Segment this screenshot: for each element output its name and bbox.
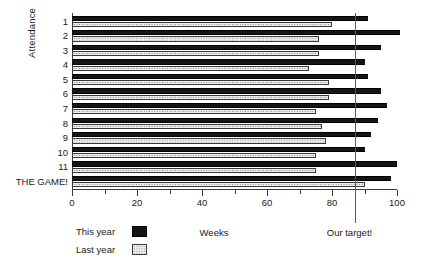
x-axis-minor-tick [300,190,301,194]
bar-this-year [72,132,371,137]
y-axis-tick-label: 1 [63,14,68,29]
bar-last-year [72,22,332,27]
y-axis-tick-label: 2 [63,29,68,44]
bar-last-year [72,124,322,129]
bar-last-year [72,80,329,85]
legend-swatch-this-year [132,226,147,237]
x-axis-tick [267,190,268,196]
y-axis-tick-label: 10 [57,145,68,160]
y-axis-tick-label: 11 [58,160,68,175]
y-axis-tick-label: 5 [63,72,68,87]
x-axis-tick-label: 40 [182,197,222,208]
x-axis-minor-tick [105,190,106,194]
category-row: 5 [72,72,397,87]
y-axis-tick-label: 8 [63,116,68,131]
bar-this-year [72,103,387,108]
chart-legend: This year Last year [76,222,147,258]
target-line [355,13,356,223]
category-row: 1 [72,14,397,29]
bar-this-year [72,147,365,152]
bar-this-year [72,30,400,35]
bar-last-year [72,109,316,114]
bar-this-year [72,74,368,79]
bar-this-year [72,176,391,181]
category-row: 7 [72,102,397,117]
bar-last-year [72,182,365,187]
x-axis-tick-label: 20 [117,197,157,208]
x-axis-tick-label: 100 [377,197,417,208]
bar-last-year [72,138,326,143]
category-row: 6 [72,87,397,102]
horizontal-bar-chart: Attendance 1234567891011THE GAME! Our ta… [0,0,428,274]
bar-last-year [72,95,329,100]
y-axis-tick-label: THE GAME! [16,174,68,189]
bar-this-year [72,16,368,21]
x-axis-minor-tick [235,190,236,194]
x-axis-tick [202,190,203,196]
legend-item-last-year: Last year [76,240,147,258]
y-axis-title: Attendance [26,44,37,58]
bar-this-year [72,161,397,166]
x-axis-tick [332,190,333,196]
bar-last-year [72,36,319,41]
legend-swatch-last-year [132,244,147,255]
bar-this-year [72,118,378,123]
x-axis-tick-label: 80 [312,197,352,208]
x-axis-tick [72,190,73,196]
plot-area: 1234567891011THE GAME! [72,14,397,189]
bar-last-year [72,168,316,173]
y-axis-tick-label: 3 [63,43,68,58]
y-axis-tick-label: 7 [63,102,68,117]
bar-last-year [72,51,319,56]
x-axis-tick [137,190,138,196]
legend-label-this-year: This year [76,226,128,237]
legend-item-this-year: This year [76,222,147,240]
bar-this-year [72,45,381,50]
category-row: 8 [72,116,397,131]
y-axis-tick-label: 9 [63,131,68,146]
y-axis-tick-label: 6 [63,87,68,102]
legend-label-last-year: Last year [76,244,128,255]
x-axis-title: Weeks [0,227,428,238]
bar-this-year [72,88,381,93]
x-axis-minor-tick [170,190,171,194]
category-row: 10 [72,145,397,160]
x-axis-tick [397,190,398,196]
x-axis-tick-label: 60 [247,197,287,208]
category-row: 9 [72,131,397,146]
bar-last-year [72,153,316,158]
bar-last-year [72,66,309,71]
category-row: 3 [72,43,397,58]
category-row: 11 [72,160,397,175]
y-axis-tick-label: 4 [63,58,68,73]
category-row: 2 [72,29,397,44]
x-axis-tick-label: 0 [52,197,92,208]
category-row: THE GAME! [72,174,397,189]
x-axis-minor-tick [365,190,366,194]
bar-this-year [72,59,365,64]
category-row: 4 [72,58,397,73]
